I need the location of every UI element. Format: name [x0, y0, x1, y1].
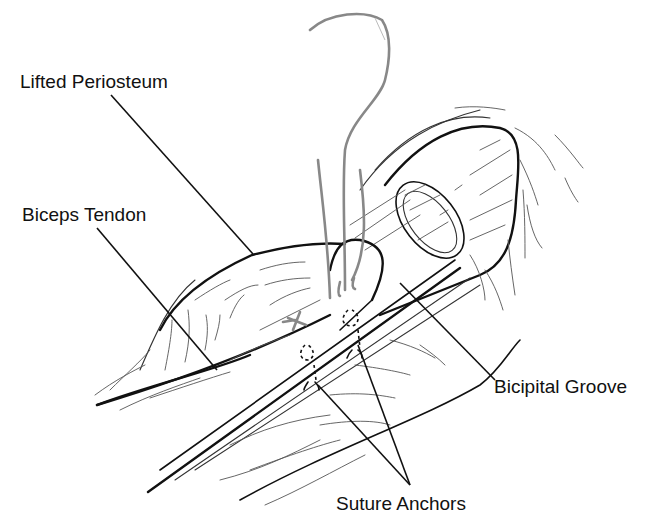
suture-anchors: [301, 310, 362, 390]
suture-thread: [310, 14, 389, 298]
leader-lifted-periosteum: [111, 95, 253, 254]
surgical-illustration: Lifted Periosteum Biceps Tendon Bicipita…: [0, 0, 663, 525]
leader-suture-anchor-1: [358, 345, 410, 485]
label-bicipital-groove: Bicipital Groove: [494, 377, 627, 396]
leader-lines: [97, 95, 495, 485]
leader-suture-anchor-2: [318, 385, 410, 485]
label-biceps-tendon: Biceps Tendon: [22, 205, 146, 224]
leader-bicipital-groove: [400, 283, 495, 380]
label-lifted-periosteum: Lifted Periosteum: [20, 72, 168, 91]
groove-opening: [382, 169, 477, 270]
leader-biceps-tendon: [97, 228, 217, 370]
humeral-head: [360, 107, 583, 315]
label-suture-anchors: Suture Anchors: [336, 494, 466, 513]
biceps-tendon: [97, 240, 383, 405]
